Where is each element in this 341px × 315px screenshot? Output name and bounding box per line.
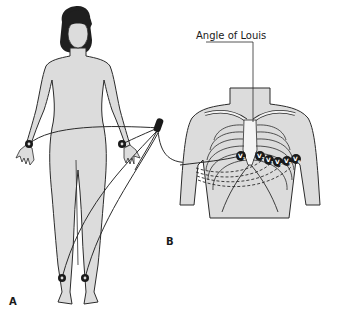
electrode-v2: V2 <box>255 151 265 161</box>
electrode-left-wrist <box>118 140 126 148</box>
left-hand <box>124 145 140 164</box>
electrode-left-ankle <box>81 274 89 282</box>
electrode-v1: V1 <box>236 151 246 161</box>
electrode-v6: V6 <box>291 154 301 164</box>
electrode-v3: V3 <box>264 155 274 165</box>
electrode-right-ankle <box>58 274 66 282</box>
right-hand <box>16 145 34 165</box>
electrode-v5: V5 <box>282 156 292 166</box>
lead-connector <box>153 117 164 133</box>
panel-label-a: A <box>9 296 17 307</box>
electrode-right-wrist <box>25 140 33 148</box>
panel-label-b: B <box>166 236 174 247</box>
body-silhouette <box>26 48 130 304</box>
electrode-v4: V4 <box>273 157 283 167</box>
panel-b-figure: Angle of Louis V1 V2 V3 V4 V5 V6 B <box>166 30 320 247</box>
ecg-diagram: A <box>0 0 341 315</box>
angle-of-louis-label: Angle of Louis <box>196 30 266 41</box>
